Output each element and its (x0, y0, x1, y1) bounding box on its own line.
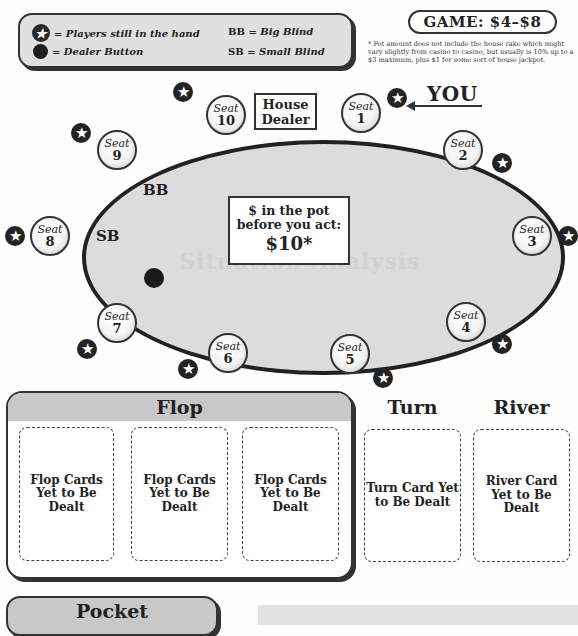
house-dealer-box: House Dealer (254, 93, 317, 130)
star-icon: ★ (492, 153, 512, 173)
pocket-panel: Pocket (6, 596, 218, 636)
seat-number: 6 (223, 352, 232, 365)
seat-9[interactable]: Seat9 (97, 130, 137, 170)
star-icon: ★ (173, 82, 193, 102)
star-icon: ★ (178, 359, 198, 379)
star-icon: ★ (387, 88, 407, 108)
seat-10[interactable]: Seat10 (206, 95, 246, 135)
meaning: Small Blind (259, 46, 325, 57)
seat-8[interactable]: Seat8 (30, 216, 70, 256)
equals: = (244, 46, 259, 57)
big-blind-marker: BB (143, 181, 168, 199)
star-icon: ★ (71, 123, 91, 143)
seat-6[interactable]: Seat6 (208, 333, 248, 373)
star-icon: ★ (558, 226, 578, 246)
legend-box: ★ = Players still in the hand = Dealer B… (18, 13, 353, 68)
star-icon: ★ (492, 334, 512, 354)
river-card[interactable]: River Card Yet to Be Dealt (473, 429, 570, 562)
dealer-button-icon (144, 268, 164, 288)
seat-number: 7 (112, 322, 121, 335)
seat-7[interactable]: Seat7 (97, 303, 137, 343)
gray-info-bar (258, 605, 578, 625)
seat-number: 5 (345, 353, 354, 366)
game-stakes-badge: GAME: $4–$8 (408, 10, 557, 34)
legend-bb: BB = Big Blind (228, 26, 313, 37)
legend-sb: SB = Small Blind (228, 46, 325, 57)
arrow-left-icon (408, 105, 482, 107)
flop-title: Flop (8, 393, 351, 421)
equals: = (245, 26, 260, 37)
seat-3[interactable]: Seat3 (512, 216, 552, 256)
seat-5[interactable]: Seat5 (330, 334, 370, 374)
seat-number: 9 (112, 149, 121, 162)
seat-2[interactable]: Seat2 (443, 130, 483, 170)
star-icon: ★ (32, 24, 50, 42)
legend-item-dealer-button: = Dealer Button (33, 44, 143, 59)
star-icon: ★ (373, 368, 393, 388)
small-blind-marker: SB (96, 227, 120, 245)
abbr: BB (228, 26, 245, 37)
pot-box: $ in the pot before you act: $10* (228, 196, 350, 265)
legend-item-players: ★ = Players still in the hand (32, 24, 200, 42)
turn-title: Turn (364, 396, 461, 418)
dealer-button-icon (33, 44, 48, 59)
rake-footnote: * Pot amount does not include the house … (368, 40, 576, 64)
pocket-title: Pocket (76, 600, 148, 622)
seat-number: 2 (458, 149, 467, 162)
seat-4[interactable]: Seat4 (446, 302, 486, 342)
seat-number: 4 (461, 321, 470, 334)
seat-number: 10 (217, 114, 235, 127)
seat-number: 8 (45, 235, 54, 248)
flop-card-3[interactable]: Flop Cards Yet to Be Dealt (242, 427, 339, 561)
seat-number: 1 (356, 112, 365, 125)
flop-card-2[interactable]: Flop Cards Yet to Be Dealt (131, 427, 228, 561)
turn-card[interactable]: Turn Card Yet to Be Dealt (364, 429, 461, 562)
seat-1[interactable]: Seat1 (341, 93, 381, 133)
meaning: Big Blind (260, 26, 313, 37)
you-label: YOU (427, 82, 478, 106)
legend-label: = Players still in the hand (54, 28, 200, 39)
pot-label-line1: $ in the pot (230, 204, 348, 218)
legend-label: = Dealer Button (52, 46, 143, 57)
star-icon: ★ (5, 226, 25, 246)
seat-number: 3 (527, 235, 536, 248)
flop-card-1[interactable]: Flop Cards Yet to Be Dealt (19, 427, 114, 561)
pot-amount: $10* (230, 232, 348, 256)
river-title: River (473, 396, 570, 418)
abbr: SB (228, 46, 244, 57)
pot-label-line2: before you act: (230, 218, 348, 232)
star-icon: ★ (77, 339, 97, 359)
